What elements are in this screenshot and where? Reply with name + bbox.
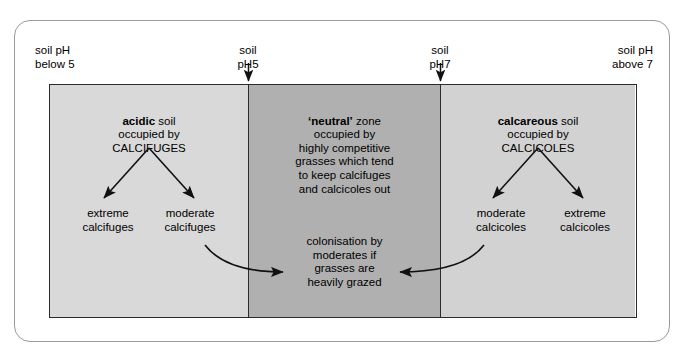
zone-neutral-heading-lines: occupied by highly competitive grasses w… — [249, 128, 440, 196]
zone-neutral-heading: ‘neutral’ zone occupied by highly compet… — [249, 101, 440, 210]
ph-label-ph7: soil pH7 — [398, 44, 482, 71]
zone-acidic-heading-rest: soil — [155, 115, 175, 127]
outcome-extreme-calcicoles: extreme calcicoles — [537, 207, 633, 234]
ph-label-above-7: soil pH above 7 — [612, 44, 653, 71]
ph-label-below-5: soil pH below 5 — [35, 44, 75, 71]
zone-acidic-heading-bold: acidic — [122, 115, 155, 127]
zone-acidic-heading: acidic soil occupied by CALCIFUGES — [50, 101, 248, 169]
zone-calcareous-heading-bold: calcareous — [498, 115, 558, 127]
zone-neutral: ‘neutral’ zone occupied by highly compet… — [249, 85, 441, 317]
zone-calcareous-heading: calcareous soil occupied by CALCICOLES — [441, 101, 635, 169]
soil-ph-diagram: soil pH below 5 soil pH5 soil pH7 soil p… — [0, 0, 687, 360]
colonisation-note: colonisation by moderates if grasses are… — [249, 235, 440, 289]
zone-acidic: acidic soil occupied by CALCIFUGES extre… — [50, 85, 249, 317]
zone-calcareous-heading-lines: occupied by CALCICOLES — [441, 128, 635, 155]
outcome-moderate-calcifuges: moderate calcifuges — [142, 207, 238, 234]
zone-acidic-heading-lines: occupied by CALCIFUGES — [50, 128, 248, 155]
ph-zone-band: acidic soil occupied by CALCIFUGES extre… — [49, 84, 637, 318]
outcome-moderate-calcicoles: moderate calcicoles — [453, 207, 549, 234]
ph-label-ph5: soil pH5 — [206, 44, 290, 71]
zone-neutral-heading-rest: zone — [353, 115, 381, 127]
zone-neutral-heading-bold: ‘neutral’ — [308, 115, 353, 127]
zone-calcareous: calcareous soil occupied by CALCICOLES m… — [441, 85, 635, 317]
zone-calcareous-heading-rest: soil — [558, 115, 578, 127]
